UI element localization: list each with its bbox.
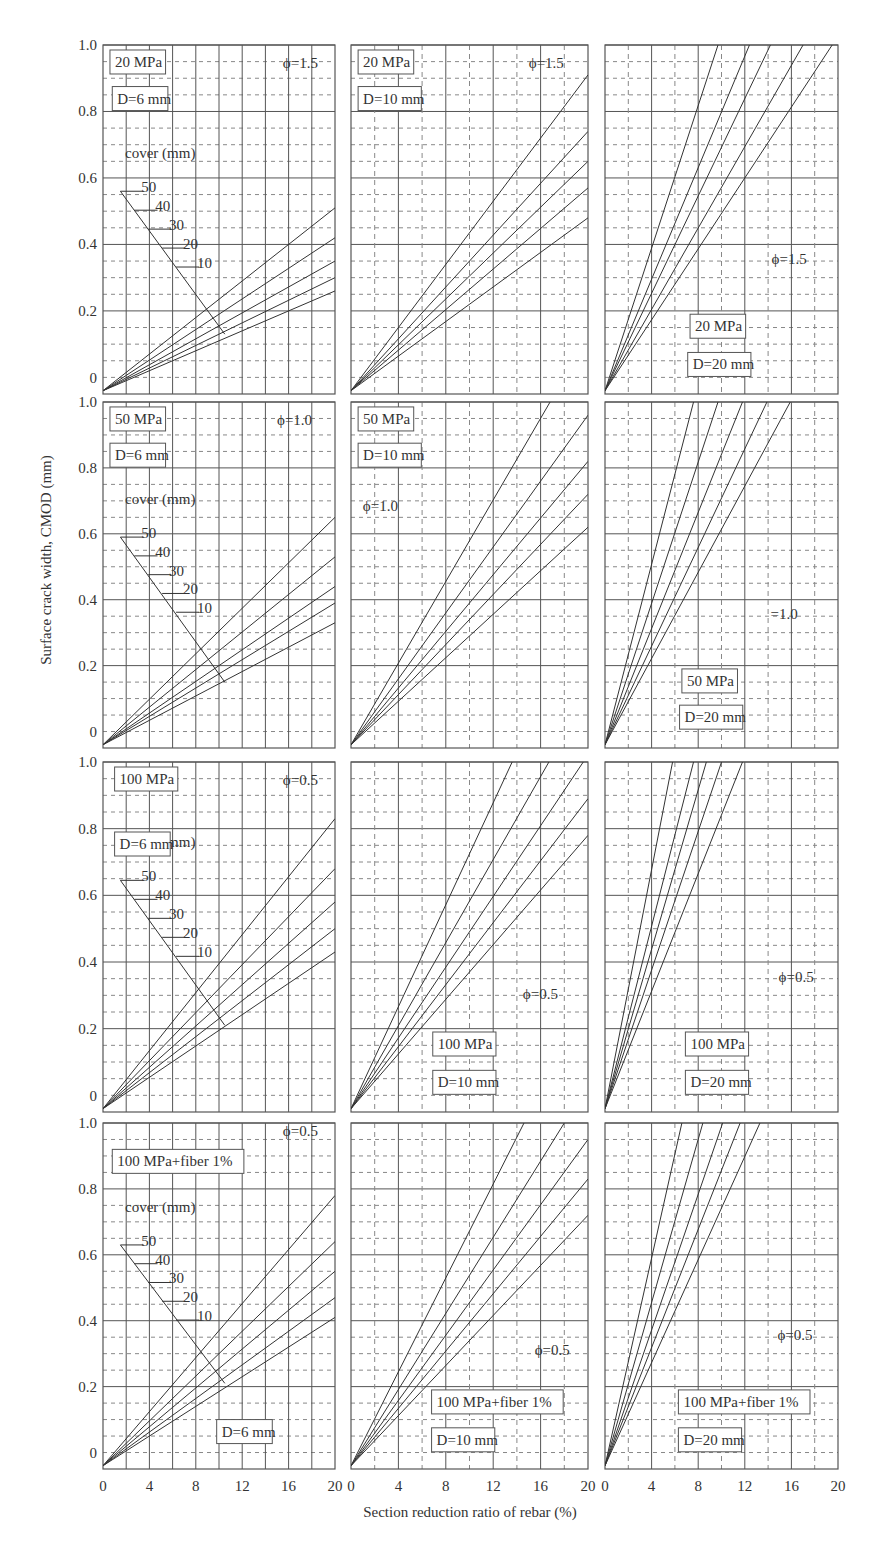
series-lines xyxy=(605,45,832,391)
strength-label-text: 100 MPa xyxy=(120,771,175,787)
diameter-label: D=10 mm xyxy=(433,1070,500,1094)
phi-label: =1.0 xyxy=(770,606,797,622)
diameter-label: D=10 mm xyxy=(358,87,425,111)
phi-label: ϕ=1.0 xyxy=(363,498,398,514)
diameter-label: D=6 mm xyxy=(217,1420,276,1444)
panels-group: cover (mm)504030201020 MPaD=6 mmϕ=1.500.… xyxy=(78,37,845,1494)
diameter-label: D=6 mm xyxy=(110,443,169,467)
x-tick-label: 0 xyxy=(99,1478,107,1494)
diameter-label: D=20 mm xyxy=(688,352,755,376)
strength-label-text: 50 MPa xyxy=(115,411,162,427)
cover-label-50: 50 xyxy=(141,868,156,884)
strength-label: 20 MPa xyxy=(110,50,166,74)
diameter-label-text: D=20 mm xyxy=(683,1432,745,1448)
diameter-label-text: D=10 mm xyxy=(363,447,425,463)
cover-label-50: 50 xyxy=(141,525,156,541)
series-line xyxy=(605,762,673,1109)
y-tick-label: 0.8 xyxy=(78,821,97,837)
diameter-label-text: D=10 mm xyxy=(437,1432,499,1448)
diameter-label-text: D=20 mm xyxy=(685,709,747,725)
strength-label-text: 20 MPa xyxy=(363,54,410,70)
strength-label: 100 MPa+fiber 1% xyxy=(678,1390,810,1414)
y-tick-label: 0.6 xyxy=(78,1247,97,1263)
phi-label: ϕ=0.5 xyxy=(283,772,318,788)
cover-label-20: 20 xyxy=(183,1289,198,1305)
panel-r2-c2: 50 MPaD=10 mmϕ=1.0 xyxy=(351,402,588,748)
series-line xyxy=(605,45,803,391)
cover-legend-title: cover (mm) xyxy=(125,145,195,162)
y-tick-label: 0.4 xyxy=(78,236,97,252)
strength-label: 20 MPa xyxy=(690,314,746,338)
series-line xyxy=(605,45,718,391)
x-tick-label: 20 xyxy=(831,1478,846,1494)
strength-label-text: 20 MPa xyxy=(695,318,742,334)
panel-r3-c3: 100 MPaD=20 mmϕ=0.5 xyxy=(605,762,838,1112)
phi-label: ϕ=0.5 xyxy=(283,1123,318,1139)
diameter-label-text: D=20 mm xyxy=(693,356,755,372)
series-line xyxy=(351,762,583,1109)
y-tick-label: 0.2 xyxy=(78,1021,97,1037)
x-tick-label: 0 xyxy=(347,1478,355,1494)
diameter-label-text: D=6 mm xyxy=(120,836,174,852)
x-tick-label: 8 xyxy=(694,1478,702,1494)
diameter-label-text: D=10 mm xyxy=(438,1074,500,1090)
x-tick-label: 8 xyxy=(192,1478,200,1494)
diameter-label-text: D=6 mm xyxy=(115,447,169,463)
x-tick-label: 4 xyxy=(146,1478,154,1494)
strength-label: 100 MPa xyxy=(115,767,178,791)
strength-label-text: 100 MPa+fiber 1% xyxy=(683,1394,798,1410)
y-tick-label: 0.8 xyxy=(78,103,97,119)
strength-label: 100 MPa+fiber 1% xyxy=(432,1390,564,1414)
x-axis-title: Section reduction ratio of rebar (%) xyxy=(363,1504,577,1521)
x-tick-label: 16 xyxy=(784,1478,800,1494)
phi-label: ϕ=0.5 xyxy=(535,1342,570,1358)
y-tick-label: 0.2 xyxy=(78,303,97,319)
cover-legend-title: cover (mm) xyxy=(125,1199,195,1216)
cover-label-20: 20 xyxy=(183,925,198,941)
x-tick-label: 12 xyxy=(737,1478,752,1494)
x-tick-label: 0 xyxy=(601,1478,609,1494)
chart-figure: Surface crack width, CMOD (mm) Section r… xyxy=(0,0,883,1554)
strength-label-text: 100 MPa xyxy=(690,1036,745,1052)
strength-label: 20 MPa xyxy=(358,50,414,74)
cover-label-50: 50 xyxy=(141,1233,156,1249)
cover-label-40: 40 xyxy=(155,887,170,903)
cover-label-20: 20 xyxy=(183,236,198,252)
series-line xyxy=(605,45,770,391)
panel-r1-c2: 20 MPaD=10 mmϕ=1.5 xyxy=(351,45,588,394)
diameter-label: D=20 mm xyxy=(680,705,747,729)
panel-r3-c2: 100 MPaD=10 mmϕ=0.5 xyxy=(351,762,588,1112)
series-line xyxy=(605,45,749,391)
y-tick-label: 0.4 xyxy=(78,592,97,608)
diameter-label-text: D=6 mm xyxy=(222,1424,276,1440)
y-tick-label: 0.2 xyxy=(78,1379,97,1395)
y-tick-label: 0.4 xyxy=(78,1313,97,1329)
y-tick-label: 0 xyxy=(90,1445,98,1461)
strength-label: 50 MPa xyxy=(358,407,414,431)
panel-r4-c2: 100 MPa+fiber 1%D=10 mmϕ=0.5048121620 xyxy=(347,1123,595,1494)
strength-label: 50 MPa xyxy=(682,669,738,693)
series-line xyxy=(605,402,694,745)
cover-label-40: 40 xyxy=(155,1252,170,1268)
diameter-label: D=10 mm xyxy=(358,443,425,467)
diameter-label: D=6 mm xyxy=(115,832,174,856)
cover-label-40: 40 xyxy=(155,544,170,560)
y-tick-label: 0.2 xyxy=(78,658,97,674)
y-tick-label: 0.6 xyxy=(78,526,97,542)
series-line xyxy=(605,762,706,1109)
y-axis-title: Surface crack width, CMOD (mm) xyxy=(38,455,55,665)
strength-label-text: 50 MPa xyxy=(363,411,410,427)
panel-r2-c3: 50 MPaD=20 mm=1.0 xyxy=(605,402,838,748)
cover-label-10: 10 xyxy=(197,1308,212,1324)
strength-label-text: 100 MPa+fiber 1% xyxy=(437,1394,552,1410)
x-tick-label: 12 xyxy=(486,1478,501,1494)
x-tick-label: 20 xyxy=(581,1478,596,1494)
series-line xyxy=(605,1123,682,1466)
y-tick-label: 0.6 xyxy=(78,887,97,903)
cover-label-10: 10 xyxy=(197,944,212,960)
x-tick-label: 4 xyxy=(648,1478,656,1494)
diameter-label: D=10 mm xyxy=(432,1428,499,1452)
phi-label: ϕ=0.5 xyxy=(523,986,558,1002)
series-line xyxy=(351,161,588,390)
diameter-label-text: D=6 mm xyxy=(117,91,171,107)
